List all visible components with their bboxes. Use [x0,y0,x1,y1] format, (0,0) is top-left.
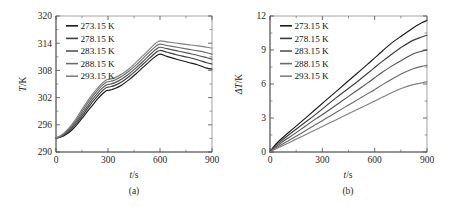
panel-a-ticks [56,16,212,152]
panel-a-curves [56,41,212,138]
panel-b-xaxis-title: t/s [344,170,353,180]
panel-b-ytick-label: 9 [261,45,266,55]
panel-b-plot-area: 0300600900036912 [257,11,435,165]
panel-b-ytick-label: 0 [261,147,266,157]
legend-label-4: 288.15 K [81,59,116,69]
panel-b-xtick-label: 900 [420,155,435,165]
panel-a-tick-labels: 0300600900290296302308314320 [38,11,220,165]
panel-a-svg: 0300600900290296302308314320 273.15 K278… [0,0,230,207]
legend-label-3: 283.15 K [295,46,330,56]
panel-a-yaxis-title: T/K [18,76,28,91]
panel-a-xtick-label: 900 [205,155,220,165]
panel-a-legend: 273.15 K278.15 K283.15 K288.15 K293.15 K [66,21,115,81]
panel-a-xtick-label: 300 [101,155,116,165]
panel-a-xaxis-title: t/s [130,170,139,180]
legend-label-3: 283.15 K [81,46,116,56]
legend-label-1: 273.15 K [81,21,116,31]
panel-a-caption: (a) [129,186,140,197]
legend-label-1: 273.15 K [295,21,330,31]
panel-a-curve-4 [56,44,212,138]
panel-a-ytick-label: 308 [38,66,53,76]
panel-b-caption: (b) [342,186,353,197]
panel-a-ytick-label: 290 [38,147,53,157]
legend-label-5: 293.15 K [295,71,330,81]
panel-a-curve-5 [56,41,212,138]
panel-a-ytick-label: 296 [38,120,53,130]
legend-label-2: 278.15 K [81,34,116,44]
panel-a: 0300600900290296302308314320 273.15 K278… [0,0,230,207]
panel-a-curve-3 [56,47,212,138]
panel-a-ytick-label: 314 [38,39,53,49]
panel-b-xtick-label: 0 [268,155,273,165]
panel-b: 0300600900036912 273.15 K278.15 K283.15 … [230,0,460,207]
panel-a-xtick-label: 0 [54,155,59,165]
panel-b-svg: 0300600900036912 273.15 K278.15 K283.15 … [230,0,460,207]
panel-b-curve-5 [270,82,427,152]
panel-b-legend: 273.15 K278.15 K283.15 K288.15 K293.15 K [280,21,329,81]
panel-b-xtick-label: 600 [368,155,383,165]
figure-container: 0300600900290296302308314320 273.15 K278… [0,0,460,207]
panel-b-ytick-label: 3 [261,113,266,123]
panel-a-xtick-label: 600 [153,155,168,165]
panel-b-ytick-label: 12 [257,11,267,21]
legend-label-4: 288.15 K [295,59,330,69]
legend-label-5: 293.15 K [81,71,116,81]
panel-b-xtick-label: 300 [315,155,330,165]
panel-a-frame [56,16,212,152]
panel-b-yaxis-title: ΔT/K [234,74,244,95]
panel-a-ytick-label: 320 [38,11,53,21]
panel-a-ytick-label: 302 [38,93,53,103]
panel-a-plot-area: 0300600900290296302308314320 [38,11,220,165]
panel-b-ytick-label: 6 [261,79,266,89]
legend-label-2: 278.15 K [295,34,330,44]
